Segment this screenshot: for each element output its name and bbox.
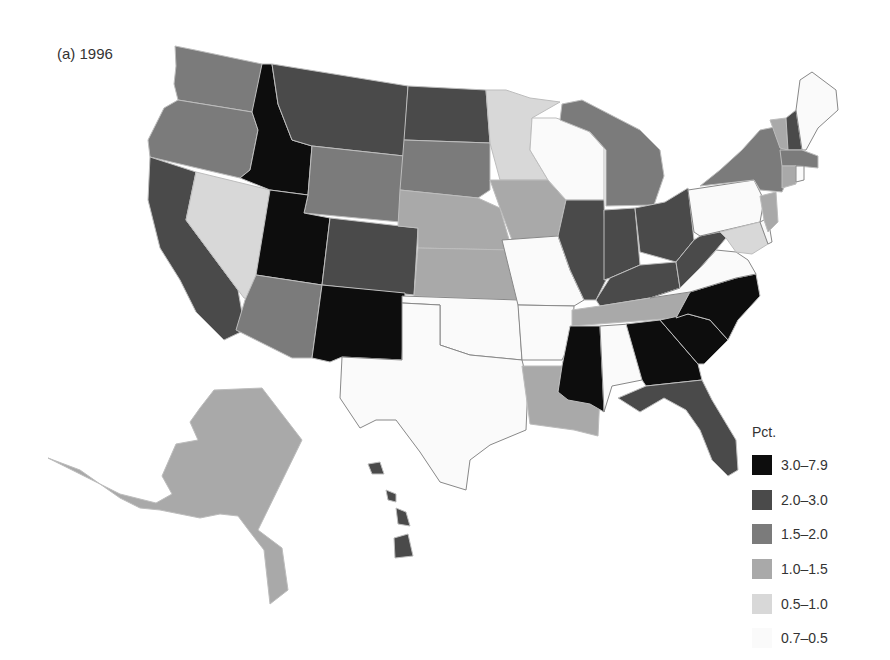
state-AK [48,388,302,604]
legend-item: 3.0–7.9 [752,448,828,483]
legend-label: 0.7–0.5 [781,630,828,646]
state-NM [312,285,405,362]
state-ND [404,86,490,143]
state-MA [780,150,818,168]
legend-label: 0.5–1.0 [781,596,828,612]
legend-swatch [752,628,772,648]
state-ME [796,72,838,150]
state-KS [414,248,518,300]
legend-swatch [752,594,772,614]
state-HI [368,462,413,558]
state-FL [618,380,738,476]
state-CO [322,218,418,295]
legend-label: 1.5–2.0 [781,526,828,542]
state-CT [782,166,796,188]
legend-item: 0.7–0.5 [752,621,828,656]
legend-item: 1.5–2.0 [752,517,828,552]
state-WY [304,146,404,222]
legend-label: 1.0–1.5 [781,561,828,577]
legend-swatch [752,455,772,475]
legend-item: 2.0–3.0 [752,483,828,518]
legend-label: 3.0–7.9 [781,457,828,473]
state-SD [400,140,490,198]
legend-title: Pct. [752,424,828,440]
legend-item: 0.5–1.0 [752,586,828,621]
legend: Pct. 3.0–7.9 2.0–3.0 1.5–2.0 1.0–1.5 0.5… [752,424,828,656]
legend-item: 1.0–1.5 [752,552,828,587]
legend-swatch [752,490,772,510]
legend-label: 2.0–3.0 [781,492,828,508]
legend-swatch [752,524,772,544]
state-RI [796,166,804,182]
legend-swatch [752,559,772,579]
